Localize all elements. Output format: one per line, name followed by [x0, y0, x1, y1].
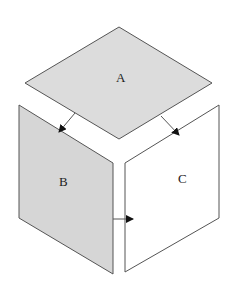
face-label-c: C	[178, 171, 187, 186]
face-c	[125, 105, 219, 272]
face-b	[19, 105, 113, 274]
arrow-a-to-b	[59, 113, 75, 132]
isometric-cube-diagram: ABC	[0, 0, 234, 295]
face-label-a: A	[116, 70, 126, 85]
face-label-b: B	[59, 174, 68, 189]
arrow-a-to-c	[161, 116, 179, 135]
